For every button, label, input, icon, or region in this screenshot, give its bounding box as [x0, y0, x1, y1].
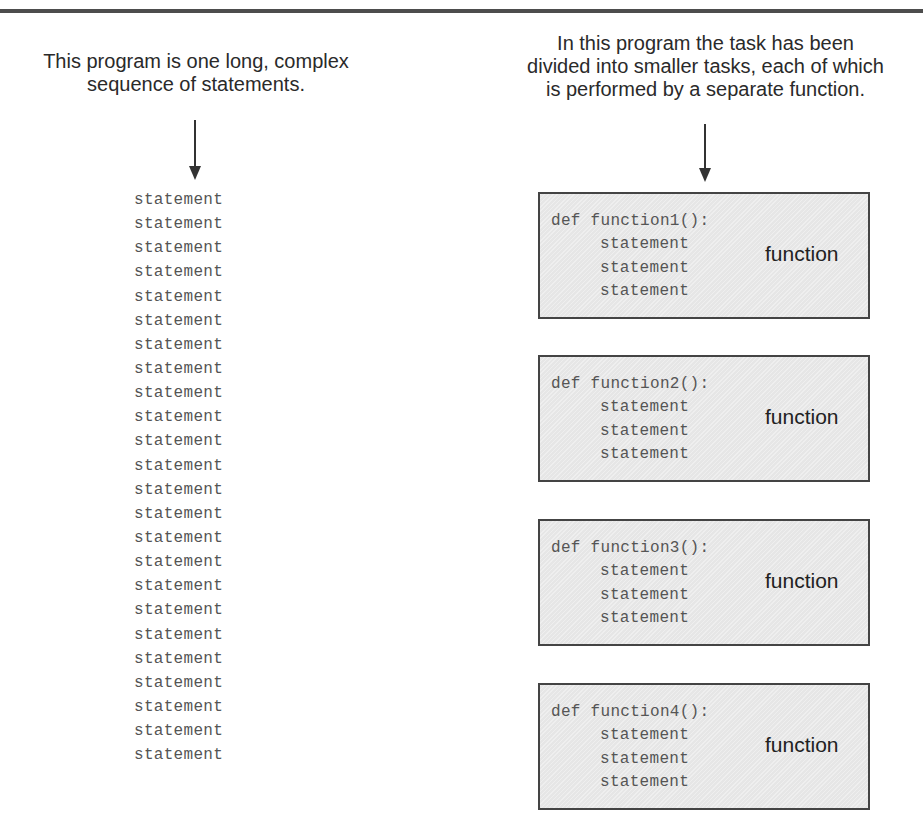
arrow-head	[699, 168, 711, 182]
function-label: function	[765, 732, 839, 758]
statement-line: statement	[134, 574, 223, 598]
function-label: function	[765, 568, 839, 594]
statement-line: statement	[134, 502, 223, 526]
arrow-shaft	[194, 120, 196, 168]
statement-line: statement	[134, 623, 223, 647]
statement-line: statement	[134, 526, 223, 550]
function-box-1: def function1(): statement statement sta…	[538, 192, 870, 319]
function-box-2: def function2(): statement statement sta…	[538, 355, 870, 482]
function-label: function	[765, 404, 839, 430]
statement-line: statement	[600, 396, 689, 420]
statement-line: statement	[600, 724, 689, 748]
function-box-3: def function3(): statement statement sta…	[538, 519, 870, 646]
caption-monolithic-program: This program is one long, complex sequen…	[0, 50, 392, 96]
monolithic-statement-list: statement statement statement statement …	[134, 188, 223, 767]
statement-line: statement	[600, 257, 689, 281]
statement-line: statement	[134, 236, 223, 260]
statement-line: statement	[134, 454, 223, 478]
statement-line: statement	[134, 285, 223, 309]
statement-line: statement	[600, 560, 689, 584]
statement-line: statement	[134, 212, 223, 236]
statement-line: statement	[134, 429, 223, 453]
statement-line: statement	[600, 748, 689, 772]
statement-line: statement	[600, 771, 689, 795]
statement-line: statement	[134, 598, 223, 622]
arrow-shaft	[704, 124, 706, 170]
function-definition-line: def function4():	[551, 700, 709, 724]
statement-line: statement	[134, 309, 223, 333]
top-divider-rule	[0, 9, 923, 13]
statement-line: statement	[134, 550, 223, 574]
down-arrow-icon	[699, 124, 711, 182]
function-body: statement statement statement	[600, 560, 689, 631]
function-definition-line: def function2():	[551, 372, 709, 396]
statement-line: statement	[134, 381, 223, 405]
statement-line: statement	[600, 420, 689, 444]
statement-line: statement	[134, 647, 223, 671]
down-arrow-icon	[189, 120, 201, 180]
function-box-4: def function4(): statement statement sta…	[538, 683, 870, 810]
statement-line: statement	[134, 671, 223, 695]
statement-line: statement	[134, 695, 223, 719]
function-definition-line: def function3():	[551, 536, 709, 560]
statement-line: statement	[600, 607, 689, 631]
function-label: function	[765, 241, 839, 267]
statement-line: statement	[134, 357, 223, 381]
statement-line: statement	[600, 584, 689, 608]
statement-line: statement	[600, 280, 689, 304]
statement-line: statement	[134, 743, 223, 767]
statement-line: statement	[134, 188, 223, 212]
statement-line: statement	[134, 333, 223, 357]
function-body: statement statement statement	[600, 724, 689, 795]
statement-line: statement	[134, 719, 223, 743]
caption-modular-program: In this program the task has been divide…	[488, 32, 923, 101]
statement-line: statement	[134, 405, 223, 429]
statement-line: statement	[600, 233, 689, 257]
statement-line: statement	[600, 443, 689, 467]
arrow-head	[189, 166, 201, 180]
statement-line: statement	[134, 478, 223, 502]
function-body: statement statement statement	[600, 396, 689, 467]
function-definition-line: def function1():	[551, 209, 709, 233]
statement-line: statement	[134, 260, 223, 284]
function-body: statement statement statement	[600, 233, 689, 304]
